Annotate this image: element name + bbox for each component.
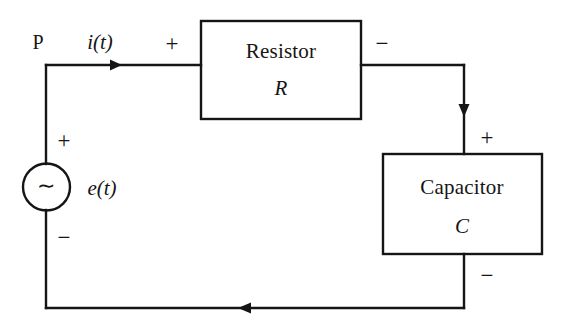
capacitor-terminal-plus-sign: + [481, 126, 494, 149]
current-label: i(t) [87, 32, 113, 53]
flow-arrow-down-icon [459, 104, 470, 117]
capacitor-terminal-minus-sign: − [481, 264, 494, 287]
resistor-terminal-minus-sign: − [376, 32, 389, 55]
circuit-diagram: P i(t) + − Resistor R + − Capacitor C ∼ … [0, 0, 569, 329]
source-plus-sign: + [58, 129, 71, 152]
return-arrow-left-icon [238, 303, 251, 314]
capacitor-block-symbol: C [455, 216, 469, 237]
resistor-block-outline [201, 21, 361, 119]
resistor-terminal-plus-sign: + [166, 32, 179, 55]
source-minus-sign: − [58, 226, 71, 249]
node-label-p: P [32, 32, 43, 52]
current-arrow-icon-lower [110, 65, 122, 71]
capacitor-block-title: Capacitor [420, 177, 503, 198]
source-voltage-label: e(t) [87, 178, 116, 199]
capacitor-block-outline [383, 154, 542, 254]
resistor-block-symbol: R [275, 78, 288, 99]
resistor-block-title: Resistor [246, 41, 316, 62]
current-arrow-icon [110, 60, 122, 66]
ac-source-tilde-icon: ∼ [37, 175, 55, 197]
